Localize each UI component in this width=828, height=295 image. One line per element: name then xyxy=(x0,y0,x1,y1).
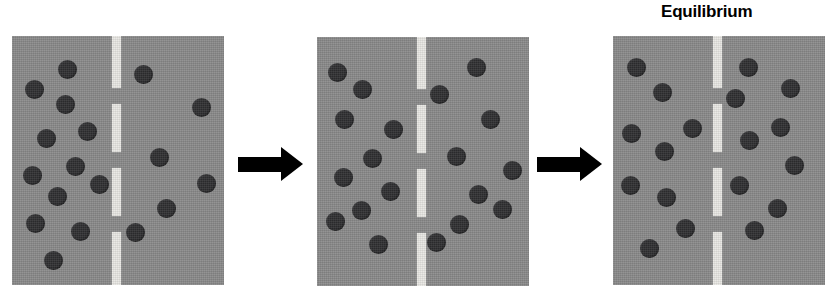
particle-right xyxy=(450,215,469,234)
particle-left xyxy=(655,142,674,161)
particle-right xyxy=(150,148,169,167)
particle-left xyxy=(37,129,56,148)
particle-right xyxy=(430,85,449,104)
particle-right xyxy=(768,199,787,218)
arrow-shaft xyxy=(238,157,282,172)
particle-left xyxy=(334,168,353,187)
particle-left xyxy=(25,80,44,99)
particle-right xyxy=(427,233,446,252)
particle-left xyxy=(627,58,646,77)
membrane-dash xyxy=(417,169,426,217)
particle-left xyxy=(78,122,97,141)
particle-right xyxy=(467,58,486,77)
particle-right xyxy=(481,110,500,129)
particle-left xyxy=(23,166,42,185)
particle-left xyxy=(363,149,382,168)
panel-initial xyxy=(12,36,224,285)
particle-left xyxy=(657,188,676,207)
membrane-dash xyxy=(417,37,426,89)
particle-left xyxy=(56,95,75,114)
particle-left xyxy=(640,239,659,258)
particle-left xyxy=(353,80,372,99)
equilibrium-label: Equilibrium xyxy=(661,2,752,22)
membrane xyxy=(417,37,426,286)
particle-right xyxy=(745,221,764,240)
particle-left xyxy=(653,83,672,102)
particle-right xyxy=(781,79,800,98)
membrane-dash xyxy=(713,232,722,285)
particle-right xyxy=(447,147,466,166)
particle-left xyxy=(676,219,695,238)
membrane-dash xyxy=(713,36,722,88)
particle-left xyxy=(352,201,371,220)
particle-left xyxy=(26,214,45,233)
particle-left xyxy=(369,235,388,254)
particle-right xyxy=(157,199,176,218)
membrane-dash xyxy=(417,233,426,286)
particle-left xyxy=(381,182,400,201)
membrane-dash xyxy=(112,232,121,285)
particle-left xyxy=(621,176,640,195)
membrane-dash xyxy=(713,104,722,152)
particle-right xyxy=(197,174,216,193)
particle-left xyxy=(71,222,90,241)
particle-right xyxy=(469,185,488,204)
panel-diffusing xyxy=(317,37,529,286)
membrane xyxy=(713,36,722,285)
particle-right xyxy=(726,89,745,108)
particle-left xyxy=(335,110,354,129)
particle-left xyxy=(328,63,347,82)
particle-right xyxy=(730,176,749,195)
membrane xyxy=(112,36,121,285)
arrow-head xyxy=(281,147,303,181)
particle-right xyxy=(503,161,522,180)
particle-right xyxy=(126,223,145,242)
membrane-dash xyxy=(112,104,121,152)
membrane-dash xyxy=(112,36,121,88)
particle-left xyxy=(90,175,109,194)
particle-left xyxy=(44,251,63,270)
membrane-dash xyxy=(713,168,722,216)
particle-right xyxy=(134,65,153,84)
particle-left xyxy=(58,60,77,79)
particle-right xyxy=(785,156,804,175)
diffusion-diagram: Equilibrium xyxy=(0,0,828,295)
membrane-dash xyxy=(112,168,121,216)
arrow-head xyxy=(580,147,602,181)
membrane-dash xyxy=(417,105,426,153)
particle-left xyxy=(622,124,641,143)
particle-left xyxy=(66,157,85,176)
panel-equilibrium xyxy=(613,36,825,285)
particle-left xyxy=(683,119,702,138)
particle-left xyxy=(384,120,403,139)
particle-left xyxy=(326,212,345,231)
particle-right xyxy=(740,131,759,150)
particle-right xyxy=(192,98,211,117)
particle-right xyxy=(771,118,790,137)
particle-left xyxy=(48,187,67,206)
particle-right xyxy=(739,58,758,77)
particle-right xyxy=(493,200,512,219)
arrow-shaft xyxy=(537,157,581,172)
